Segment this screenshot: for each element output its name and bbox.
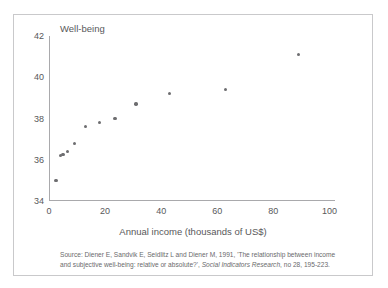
scatter-point <box>66 150 69 153</box>
x-tick-label: 0 <box>46 207 51 216</box>
scatter-point <box>98 121 101 124</box>
scatter-point <box>61 153 64 156</box>
scatter-point <box>113 117 116 120</box>
scatter-point <box>84 125 87 128</box>
y-tick-label: 34 <box>34 197 44 206</box>
x-axis-title: Annual income (thousands of US$) <box>14 227 372 237</box>
source-note-journal: Social Indicators Research <box>202 261 280 268</box>
scatter-point <box>73 142 76 145</box>
scatter-point <box>54 179 57 182</box>
x-axis-line <box>49 200 335 201</box>
y-tick-label: 36 <box>34 155 44 164</box>
y-tick-label: 42 <box>34 32 44 41</box>
x-tick-label: 100 <box>322 207 337 216</box>
y-axis-title: Well-being <box>60 24 105 34</box>
y-tick-label: 38 <box>34 114 44 123</box>
y-tick-label: 40 <box>34 73 44 82</box>
x-tick-label: 40 <box>156 207 166 216</box>
y-axis-line <box>49 36 50 201</box>
source-note-suffix: , no 28, 195-223. <box>280 261 330 268</box>
figure-panel: Well-being 3436384042 020406080100 Annua… <box>13 14 373 276</box>
x-tick-label: 20 <box>100 207 110 216</box>
scatter-point <box>134 102 137 105</box>
plot-area: 3436384042 020406080100 <box>49 36 335 201</box>
scatter-point <box>297 53 300 56</box>
x-tick-label: 60 <box>212 207 222 216</box>
x-tick-label: 80 <box>268 207 278 216</box>
scatter-point <box>224 88 227 91</box>
source-note: Source: Diener E, Sandvik E, Seidlitz L … <box>60 250 346 270</box>
scatter-point <box>168 92 171 95</box>
